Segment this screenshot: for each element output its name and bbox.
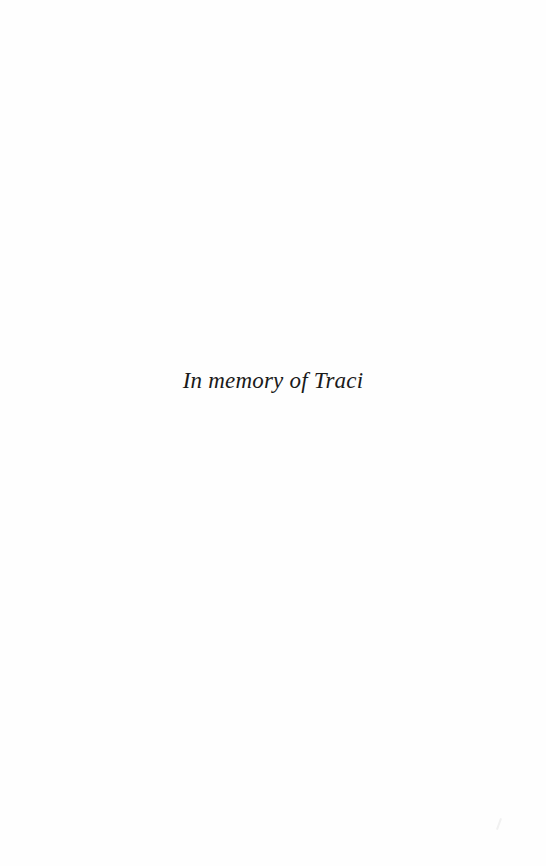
book-page: In memory of Traci [0, 0, 546, 866]
scan-artifact [496, 818, 502, 830]
dedication-text: In memory of Traci [0, 366, 546, 396]
